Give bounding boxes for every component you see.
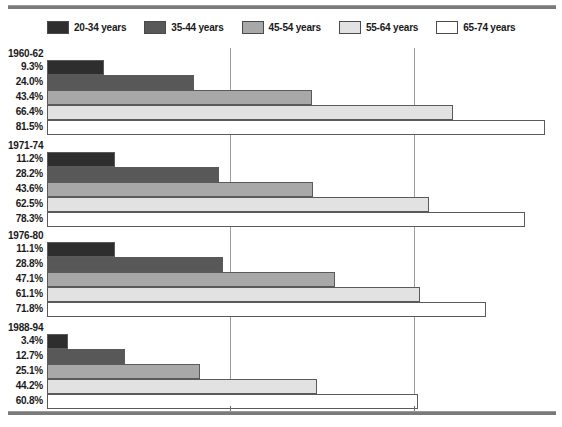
bar-group: 1960-629.3%24.0%43.4%66.4%81.5% xyxy=(0,60,562,135)
bar xyxy=(47,60,104,75)
legend-label: 45-54 years xyxy=(269,22,321,33)
bar-row: 25.1% xyxy=(0,364,562,379)
bar-value-label: 60.8% xyxy=(0,395,43,406)
legend-swatch xyxy=(242,21,264,34)
legend-swatch xyxy=(144,21,166,34)
bar-group: 1976-8011.1%28.8%47.1%61.1%71.8% xyxy=(0,242,562,317)
bar-value-label: 47.1% xyxy=(0,273,43,284)
bar-value-label: 25.1% xyxy=(0,365,43,376)
bar-row: 62.5% xyxy=(0,197,562,212)
group-title: 1960-62 xyxy=(8,48,43,59)
bottom-divider-rule xyxy=(8,411,556,415)
bar-value-label: 24.0% xyxy=(0,76,43,87)
bar-value-label: 71.8% xyxy=(0,303,43,314)
bar-row: 3.4% xyxy=(0,334,562,349)
bar xyxy=(47,272,335,287)
bar-value-label: 43.6% xyxy=(0,183,43,194)
bar xyxy=(47,364,200,379)
bar-value-label: 81.5% xyxy=(0,121,43,132)
legend-label: 35-44 years xyxy=(171,22,223,33)
bar xyxy=(47,75,194,90)
bar xyxy=(47,105,453,120)
bar xyxy=(47,394,418,409)
bar xyxy=(47,334,68,349)
bar-value-label: 12.7% xyxy=(0,350,43,361)
chart-figure: 20-34 years35-44 years45-54 years55-64 y… xyxy=(0,0,562,427)
bar xyxy=(47,302,486,317)
bar-value-label: 66.4% xyxy=(0,106,43,117)
bar-row: 66.4% xyxy=(0,105,562,120)
legend-item: 65-74 years xyxy=(436,21,515,34)
bar-value-label: 61.1% xyxy=(0,288,43,299)
bar-value-label: 78.3% xyxy=(0,213,43,224)
legend-swatch xyxy=(339,21,361,34)
bar xyxy=(47,349,125,364)
legend-item: 45-54 years xyxy=(242,21,321,34)
legend-swatch xyxy=(436,21,458,34)
bar xyxy=(47,379,317,394)
legend-label: 20-34 years xyxy=(74,22,126,33)
bar xyxy=(47,242,115,257)
top-divider-rule xyxy=(8,5,556,9)
bar-value-label: 3.4% xyxy=(0,335,43,346)
bar xyxy=(47,197,429,212)
bar-row: 81.5% xyxy=(0,120,562,135)
legend-item: 35-44 years xyxy=(144,21,223,34)
bar-row: 9.3% xyxy=(0,60,562,75)
bar-value-label: 62.5% xyxy=(0,198,43,209)
bar-value-label: 28.8% xyxy=(0,258,43,269)
legend-item: 55-64 years xyxy=(339,21,418,34)
bar xyxy=(47,182,313,197)
bar-value-label: 11.1% xyxy=(0,243,43,254)
bar-row: 43.6% xyxy=(0,182,562,197)
group-title: 1976-80 xyxy=(8,230,43,241)
bar-row: 43.4% xyxy=(0,90,562,105)
bar-value-label: 28.2% xyxy=(0,168,43,179)
legend-item: 20-34 years xyxy=(47,21,126,34)
plot-area: 1960-629.3%24.0%43.4%66.4%81.5%1971-7411… xyxy=(0,40,562,408)
bar-row: 71.8% xyxy=(0,302,562,317)
bar-row: 28.8% xyxy=(0,257,562,272)
legend-label: 65-74 years xyxy=(463,22,515,33)
bar xyxy=(47,257,223,272)
bar-row: 11.2% xyxy=(0,152,562,167)
group-title: 1971-74 xyxy=(8,140,43,151)
bar-row: 47.1% xyxy=(0,272,562,287)
legend-swatch xyxy=(47,21,69,34)
bar-group: 1988-943.4%12.7%25.1%44.2%60.8% xyxy=(0,334,562,409)
chart-legend: 20-34 years35-44 years45-54 years55-64 y… xyxy=(47,21,533,34)
bar-row: 78.3% xyxy=(0,212,562,227)
group-title: 1988-94 xyxy=(8,322,43,333)
bar xyxy=(47,90,312,105)
bar xyxy=(47,212,525,227)
bar xyxy=(47,287,420,302)
bar-group: 1971-7411.2%28.2%43.6%62.5%78.3% xyxy=(0,152,562,227)
bar xyxy=(47,120,545,135)
bar-value-label: 44.2% xyxy=(0,380,43,391)
bar-row: 61.1% xyxy=(0,287,562,302)
bar xyxy=(47,152,115,167)
bar-row: 11.1% xyxy=(0,242,562,257)
bar-value-label: 43.4% xyxy=(0,91,43,102)
legend-label: 55-64 years xyxy=(366,22,418,33)
bar xyxy=(47,167,219,182)
bar-row: 44.2% xyxy=(0,379,562,394)
bar-row: 24.0% xyxy=(0,75,562,90)
bar-value-label: 11.2% xyxy=(0,153,43,164)
bar-row: 12.7% xyxy=(0,349,562,364)
bar-row: 28.2% xyxy=(0,167,562,182)
bar-value-label: 9.3% xyxy=(0,61,43,72)
bar-row: 60.8% xyxy=(0,394,562,409)
